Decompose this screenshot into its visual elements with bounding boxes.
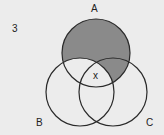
venn-diagram <box>0 0 164 135</box>
label-a: A <box>91 3 98 14</box>
label-b: B <box>36 117 43 128</box>
question-number: 3 <box>12 23 18 34</box>
region-marker-x: x <box>93 70 98 81</box>
shaded-region <box>0 0 164 135</box>
label-c: C <box>146 117 153 128</box>
